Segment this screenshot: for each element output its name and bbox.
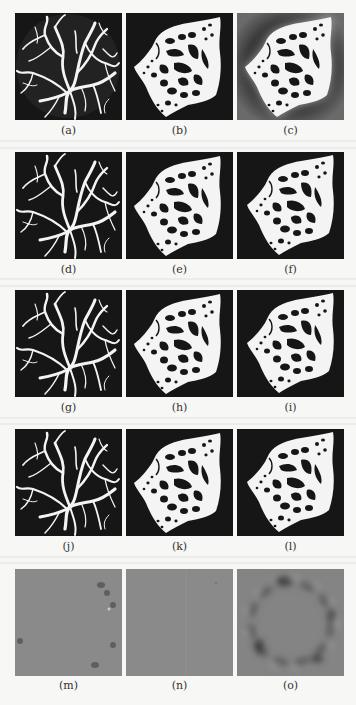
panel-caption: (g) bbox=[15, 402, 122, 414]
panel-caption: (o) bbox=[237, 680, 344, 692]
panel-caption: (i) bbox=[237, 402, 344, 414]
panel-caption: (f) bbox=[237, 264, 344, 276]
figure-panel-d bbox=[15, 152, 122, 259]
panel-caption: (k) bbox=[126, 541, 233, 553]
figure-panel-b bbox=[126, 13, 233, 120]
figure-panel-l bbox=[237, 429, 344, 536]
panel-caption: (m) bbox=[15, 680, 122, 692]
figure-panel-j bbox=[15, 429, 122, 536]
figure-panel-g bbox=[15, 290, 122, 397]
figure-panel-k bbox=[126, 429, 233, 536]
panel-caption: (d) bbox=[15, 264, 122, 276]
figure-panel-a bbox=[15, 13, 122, 120]
panel-caption: (l) bbox=[237, 541, 344, 553]
figure-panel-h bbox=[126, 290, 233, 397]
panel-caption: (a) bbox=[15, 125, 122, 137]
figure-panel-n bbox=[126, 569, 233, 676]
figure-panel-m bbox=[15, 569, 122, 676]
figure-panel-f bbox=[237, 152, 344, 259]
figure-panel-i bbox=[237, 290, 344, 397]
panel-caption: (b) bbox=[126, 125, 233, 137]
panel-caption: (n) bbox=[126, 680, 233, 692]
panel-caption: (h) bbox=[126, 402, 233, 414]
figure-panel-o bbox=[237, 569, 344, 676]
figure-panel-c bbox=[237, 13, 344, 120]
panel-caption: (e) bbox=[126, 264, 233, 276]
figure-panel-e bbox=[126, 152, 233, 259]
panel-caption: (c) bbox=[237, 125, 344, 137]
panel-caption: (j) bbox=[15, 541, 122, 553]
